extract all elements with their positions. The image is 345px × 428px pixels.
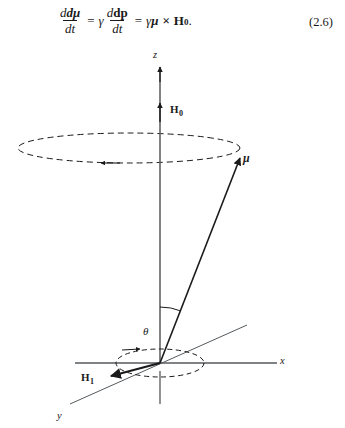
cross-product-symbol: × <box>162 14 169 27</box>
mu-vector <box>160 158 240 363</box>
derivative-p-fraction: ddp dt <box>105 6 130 35</box>
derivative-mu-fraction: ddμ dt <box>58 6 82 35</box>
gamma-symbol-1: γ <box>99 14 104 27</box>
theta-arc <box>160 307 181 311</box>
h1-vector <box>111 363 160 376</box>
h0-label: H0 <box>170 104 183 115</box>
equation-block: ddμ dt = γ ddp dt = γ μ × H0. (2.6) <box>0 6 345 42</box>
precession-diagram: z H0 μ θ x y H1 <box>0 42 345 428</box>
theta-label: θ <box>143 326 148 337</box>
equation-period: . <box>188 14 191 27</box>
x-axis-label: x <box>280 356 285 367</box>
derivative-mu-numerator: ddμ <box>58 6 82 20</box>
derivative-p-denominator: dt <box>110 20 124 35</box>
z-axis-label: z <box>153 50 157 61</box>
equals-sign-2: = <box>135 14 142 27</box>
field-h0-symbol: H <box>174 14 184 27</box>
equation-expression: ddμ dt = γ ddp dt = γ μ × H0. <box>57 6 192 35</box>
h0-label-subscript: 0 <box>179 109 183 118</box>
mu-symbol: μ <box>151 14 158 27</box>
derivative-p-numerator: ddp <box>105 6 130 20</box>
field-h0-subscript: 0 <box>184 18 189 27</box>
h0-label-letter: H <box>170 103 179 115</box>
derivative-mu-denominator: dt <box>63 20 77 35</box>
figure-page: ddμ dt = γ ddp dt = γ μ × H0. (2.6) <box>0 0 345 428</box>
h1-label-letter: H <box>81 371 90 383</box>
diagram-canvas <box>0 42 345 428</box>
base-ellipse-direction-arrow <box>122 349 140 350</box>
h1-label-subscript: 1 <box>90 377 94 386</box>
equals-sign-1: = <box>87 14 94 27</box>
h1-label: H1 <box>81 372 94 383</box>
y-axis-label: y <box>57 411 62 422</box>
mu-label: μ <box>243 152 250 164</box>
precession-ellipse <box>18 133 240 163</box>
equation-number: (2.6) <box>309 15 333 30</box>
